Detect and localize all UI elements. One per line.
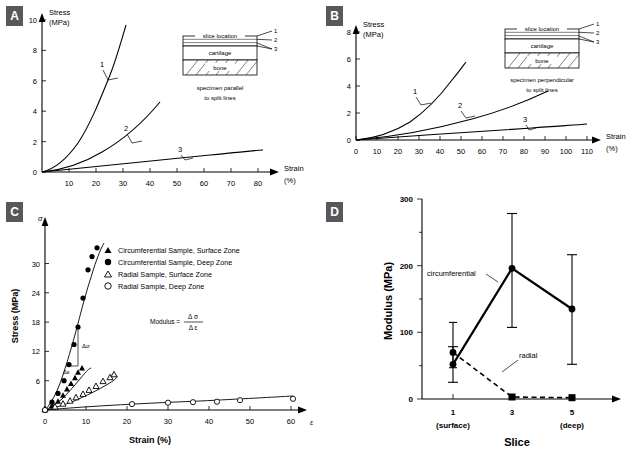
- panel-a-inset-slice-location: slice location: [203, 33, 237, 39]
- panel-d-xlabel: Slice: [504, 436, 530, 448]
- panel-b-xtick-7: 70: [499, 147, 507, 156]
- panel-a-ytick-5: 10: [29, 16, 37, 25]
- panel-c-modulus-formula: Modulus = Δ σ Δ ε: [150, 313, 203, 331]
- panel-a-xtick-2: 30: [119, 179, 127, 188]
- panel-b-inset-num-2: 2: [596, 30, 600, 36]
- panel-d-xtick-2: 5: [570, 408, 575, 417]
- panel-d-ytick-3: 300: [400, 195, 414, 204]
- panel-c-ylabel: Stress (MPa): [10, 289, 20, 344]
- panel-d-series-radial: [449, 322, 576, 401]
- panel-d-ytick-0: 0: [409, 395, 414, 404]
- panel-c-ytick-4: 30: [32, 260, 40, 269]
- panel-d-xtick-1: 3: [510, 408, 515, 417]
- panel-a-xtick-6: 70: [227, 179, 235, 188]
- panel-a-ytick-4: 8: [33, 46, 37, 55]
- panel-b-curve-label-2: 2: [458, 101, 462, 110]
- panel-b-curve-1: [356, 62, 466, 140]
- panel-a-ytick-1: 2: [33, 138, 37, 147]
- panel-a-xtick-4: 50: [173, 179, 181, 188]
- panel-b-xtick-3: 30: [415, 147, 423, 156]
- panel-b-xtick-11: 110: [581, 147, 593, 156]
- panel-d-label-circumferential: circumferential: [427, 269, 476, 278]
- panel-b-ytick-0: 0: [347, 136, 351, 145]
- panel-a-ytick-3: 6: [33, 77, 37, 86]
- panel-d-series-circumferential: [448, 214, 577, 383]
- panel-a-curve-label-2: 2: [124, 124, 128, 133]
- panel-a-xlabel-2: (%): [284, 176, 296, 185]
- panel-c-xtick-5: 50: [246, 417, 254, 426]
- panel-b-xlabel-2: (%): [606, 144, 618, 153]
- data-point-marker: [450, 349, 457, 356]
- panel-c-chart: 6 12 18 24 30 0 10 20 30 40 50 60 σ ε St…: [0, 196, 322, 452]
- panel-a-inset-num-1: 1: [274, 28, 278, 34]
- data-point-marker: [509, 265, 516, 272]
- panel-a-ytick-0: 0: [33, 168, 37, 177]
- panel-b-curve-label-3: 3: [523, 115, 527, 124]
- panel-c-xtick-2: 20: [123, 417, 131, 426]
- panel-b-inset-caption-1: specimen perpendicular: [510, 77, 574, 83]
- panel-a-chart: 0 2 4 6 8 10 10 20 30 40 50 60 70 80 Str…: [0, 0, 322, 196]
- panel-b: B 0 2 4 6 8 0: [322, 0, 644, 196]
- panel-b-badge: B: [326, 6, 343, 26]
- panel-c-badge: C: [6, 202, 23, 222]
- panel-d: D 0 100 200 300 1 3 5 (surface) (deep) M…: [322, 196, 644, 452]
- panel-b-chart: 0 2 4 6 8 0 10 20 30 40 50 60 70 80 90 1…: [322, 0, 644, 196]
- panel-c-xtick-0: 0: [43, 417, 47, 426]
- panel-a-ylabel-1: Stress: [49, 8, 71, 17]
- panel-b-inset-num-3: 3: [596, 39, 600, 45]
- panel-b-ylabel-1: Stress: [363, 20, 385, 29]
- panel-a-xtick-5: 60: [200, 179, 208, 188]
- legend-marker-filled-circle: [105, 259, 111, 265]
- panel-b-ytick-3: 6: [347, 55, 351, 64]
- panel-d-ytick-1: 100: [400, 328, 414, 337]
- panel-b-xtick-5: 50: [457, 147, 465, 156]
- panel-d-axes: [417, 199, 621, 402]
- panel-a-xtick-3: 40: [146, 179, 154, 188]
- data-point-marker: [569, 394, 576, 401]
- modulus-label: Modulus =: [150, 318, 180, 325]
- panel-c: C 6 12 18 24 30 0 10 20 30 40 5: [0, 196, 322, 452]
- panel-c-ytick-3: 24: [32, 289, 40, 298]
- panel-a-xtick-1: 20: [92, 179, 100, 188]
- panel-c-legend-label-0: Circumferential Sample, Surface Zone: [118, 246, 240, 255]
- panel-b-xtick-6: 60: [478, 147, 486, 156]
- panel-b-inset-cartilage: cartilage: [531, 43, 554, 49]
- panel-c-delta-epsilon: Δε: [63, 369, 70, 375]
- panel-c-markers-circ-deep: [42, 245, 99, 412]
- panel-b-curve-label-1: 1: [413, 87, 417, 96]
- panel-d-badge: D: [326, 202, 343, 222]
- panel-a-curve-label-1: 1: [100, 60, 104, 69]
- legend-marker-open-triangle: [105, 271, 112, 277]
- panel-d-chart: 0 100 200 300 1 3 5 (surface) (deep) Mod…: [322, 196, 644, 452]
- data-point-marker: [509, 394, 516, 401]
- panel-c-xtick-4: 40: [205, 417, 213, 426]
- panel-a-badge: A: [6, 6, 23, 26]
- panel-a-xlabel-1: Strain: [284, 164, 304, 173]
- panel-b-inset: slice location cartilage bone 1 2 3 spec…: [505, 21, 600, 93]
- panel-c-legend-label-2: Radial Sample, Surface Zone: [118, 270, 212, 279]
- panel-b-xtick-1: 10: [373, 147, 381, 156]
- panel-c-legend: Circumferential Sample, Surface Zone Cir…: [105, 246, 240, 291]
- data-point-marker: [569, 306, 576, 313]
- panel-a-xtick-7: 80: [254, 179, 262, 188]
- panel-b-xlabel-1: Strain: [606, 132, 626, 141]
- panel-b-xtick-0: 0: [354, 147, 358, 156]
- panel-a: A 0 2 4 6 8 1: [0, 0, 322, 196]
- panel-c-xtick-3: 30: [164, 417, 172, 426]
- panel-b-xtick-8: 80: [520, 147, 528, 156]
- panel-a-inset-num-2: 2: [274, 37, 278, 43]
- panel-b-ytick-1: 2: [347, 109, 351, 118]
- panel-c-xtick-6: 60: [287, 417, 295, 426]
- panel-c-ytick-1: 12: [32, 347, 40, 356]
- panel-c-xaxis-symbol: ε: [310, 418, 314, 427]
- panel-a-xtick-0: 10: [65, 179, 73, 188]
- panel-c-xtick-1: 10: [82, 417, 90, 426]
- panel-d-label-radial: radial: [519, 351, 538, 360]
- panel-d-ytick-2: 200: [400, 262, 414, 271]
- panel-a-curve-1: [42, 25, 126, 172]
- panel-c-ytick-0: 6: [36, 377, 40, 386]
- panel-a-ytick-2: 4: [33, 107, 37, 116]
- panel-d-xsub-2: (deep): [560, 421, 584, 430]
- modulus-denominator: Δ ε: [189, 324, 198, 331]
- panel-a-inset-bone: bone: [213, 65, 227, 71]
